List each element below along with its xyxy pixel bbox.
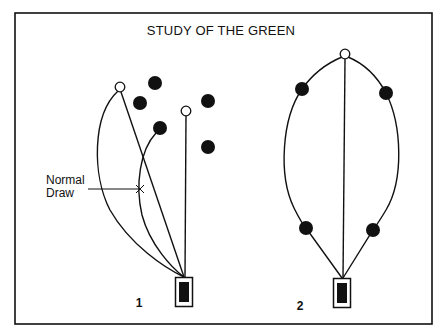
diagram-label-2: 2 bbox=[297, 299, 304, 313]
center-path bbox=[343, 59, 345, 278]
annotation-normal: Normal bbox=[46, 173, 85, 187]
diagram-2: 2 bbox=[284, 49, 399, 313]
green-box-inner bbox=[179, 282, 189, 302]
filled-circle bbox=[366, 223, 380, 237]
filled-circle bbox=[148, 76, 162, 90]
wide-curve-path bbox=[97, 91, 184, 277]
filled-circle bbox=[295, 82, 309, 96]
green-box-inner bbox=[337, 283, 347, 303]
diagram-label-1: 1 bbox=[136, 296, 143, 310]
diagram-1: Normal Draw 1 bbox=[46, 76, 215, 310]
figure-frame bbox=[15, 13, 432, 324]
filled-circle bbox=[201, 140, 215, 154]
vertical-path bbox=[185, 116, 186, 277]
left-arc-path bbox=[284, 57, 342, 278]
study-of-the-green-figure: STUDY OF THE GREEN Normal Draw 1 bbox=[0, 0, 443, 335]
open-circle-target bbox=[340, 49, 350, 59]
annotation-draw: Draw bbox=[46, 186, 74, 200]
filled-circle bbox=[153, 121, 167, 135]
open-circle-target bbox=[115, 82, 125, 92]
figure-title: STUDY OF THE GREEN bbox=[147, 23, 295, 38]
filled-circle bbox=[379, 86, 393, 100]
filled-circle bbox=[299, 221, 313, 235]
straight-path bbox=[121, 92, 184, 277]
filled-circle bbox=[133, 96, 147, 110]
filled-circle bbox=[201, 94, 215, 108]
open-circle-target bbox=[181, 106, 191, 116]
